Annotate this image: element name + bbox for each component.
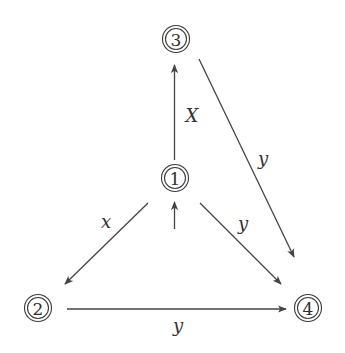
edge-1-to-3: X — [175, 65, 200, 160]
node-label-1: 1 — [170, 169, 181, 189]
state-diagram: X x y y y 3 1 2 4 — [0, 0, 345, 353]
node-label-2: 2 — [33, 299, 44, 319]
state-node-1: 1 — [162, 165, 189, 192]
node-label-3: 3 — [171, 30, 182, 50]
edge-1-to-2: x — [65, 203, 148, 284]
edge-label-3-4: y — [257, 148, 269, 169]
edge-1-to-4: y — [200, 203, 281, 284]
state-node-4: 4 — [295, 295, 322, 322]
node-label-4: 4 — [303, 299, 314, 319]
state-node-2: 2 — [25, 295, 52, 322]
edge-2-to-4: y — [67, 309, 286, 336]
edge-label-1-2: x — [101, 211, 111, 232]
edge-label-1-3: X — [184, 105, 200, 126]
state-node-3: 3 — [163, 26, 190, 53]
edge-label-2-4: y — [172, 315, 184, 336]
edge-label-1-4: y — [237, 213, 249, 234]
